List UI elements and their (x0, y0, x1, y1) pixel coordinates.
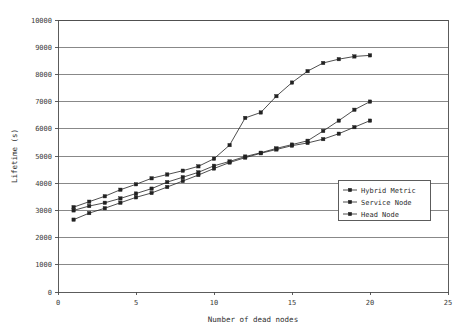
data-point (197, 165, 200, 168)
data-point (244, 116, 247, 119)
data-point (322, 61, 325, 64)
x-tick-label: 25 (444, 299, 452, 307)
data-point (134, 196, 137, 199)
y-tick-label: 4000 (35, 180, 52, 188)
y-tick-label: 2000 (35, 234, 52, 242)
series-hybrid-metric (72, 54, 372, 209)
data-point (119, 197, 122, 200)
legend-label: Head Node (361, 211, 399, 219)
data-point (88, 200, 91, 203)
data-point (228, 143, 231, 146)
data-point (368, 100, 371, 103)
data-point (306, 141, 309, 144)
legend-swatch-marker (348, 188, 351, 191)
data-point (275, 94, 278, 97)
x-tick-label: 0 (56, 299, 60, 307)
y-axis: 0100020003000400050006000700080009000100… (31, 17, 58, 297)
data-point (197, 173, 200, 176)
x-tick-label: 15 (288, 299, 296, 307)
data-point (306, 69, 309, 72)
data-point (181, 169, 184, 172)
data-point (353, 125, 356, 128)
data-point (290, 144, 293, 147)
data-point (181, 179, 184, 182)
data-point (322, 137, 325, 140)
data-point (322, 129, 325, 132)
data-point (353, 108, 356, 111)
data-point (259, 111, 262, 114)
x-tick-label: 5 (134, 299, 138, 307)
y-tick-label: 0 (48, 289, 52, 297)
series-group (72, 54, 372, 222)
chart-figure: 0100020003000400050006000700080009000100… (0, 0, 468, 332)
x-axis: 0510152025 (56, 292, 452, 307)
data-point (150, 191, 153, 194)
data-point (275, 148, 278, 151)
data-point (259, 152, 262, 155)
data-point (103, 195, 106, 198)
x-tick-label: 20 (366, 299, 374, 307)
data-point (119, 188, 122, 191)
axis-titles: Number of dead nodesLifetime (s) (10, 129, 298, 324)
y-axis-title: Lifetime (s) (10, 129, 19, 183)
gridlines (58, 20, 448, 265)
data-point (166, 185, 169, 188)
data-point (166, 173, 169, 176)
data-point (228, 161, 231, 164)
data-point (166, 180, 169, 183)
legend-label: Service Node (361, 199, 412, 207)
y-tick-label: 9000 (35, 44, 52, 52)
y-tick-label: 3000 (35, 207, 52, 215)
data-point (88, 204, 91, 207)
x-tick-label: 10 (210, 299, 218, 307)
x-axis-title: Number of dead nodes (208, 315, 298, 324)
data-point (290, 81, 293, 84)
series-head-node (72, 119, 372, 221)
y-tick-label: 5000 (35, 153, 52, 161)
data-point (337, 119, 340, 122)
data-point (181, 176, 184, 179)
legend-swatch-marker (348, 200, 351, 203)
data-point (353, 55, 356, 58)
data-point (134, 183, 137, 186)
data-point (244, 156, 247, 159)
data-point (103, 201, 106, 204)
data-point (212, 157, 215, 160)
y-tick-label: 6000 (35, 125, 52, 133)
data-point (337, 132, 340, 135)
y-tick-label: 8000 (35, 71, 52, 79)
data-point (134, 192, 137, 195)
data-point (103, 207, 106, 210)
legend-label: Hybrid Metric (361, 187, 416, 195)
y-tick-label: 10000 (31, 17, 52, 25)
data-point (88, 211, 91, 214)
y-tick-label: 7000 (35, 98, 52, 106)
data-point (72, 218, 75, 221)
data-point (368, 54, 371, 57)
legend: Hybrid MetricService NodeHead Node (338, 180, 430, 220)
data-point (72, 205, 75, 208)
legend-swatch-marker (348, 212, 351, 215)
data-point (72, 209, 75, 212)
data-point (368, 119, 371, 122)
data-point (337, 57, 340, 60)
data-point (150, 187, 153, 190)
data-point (150, 177, 153, 180)
y-tick-label: 1000 (35, 261, 52, 269)
data-point (119, 201, 122, 204)
data-point (212, 167, 215, 170)
line-chart: 0100020003000400050006000700080009000100… (0, 0, 468, 332)
